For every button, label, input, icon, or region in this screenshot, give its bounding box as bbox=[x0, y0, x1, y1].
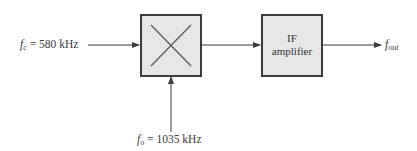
mixer-block bbox=[140, 14, 202, 77]
amplifier-label-line2: amplifier bbox=[263, 45, 321, 58]
if-amplifier-block: IF amplifier bbox=[261, 14, 323, 77]
oscillator-frequency-label: fo = 1035 kHz bbox=[137, 134, 202, 147]
input-frequency-label: fc = 580 kHz bbox=[20, 39, 78, 52]
output-frequency-label: fout bbox=[385, 39, 398, 52]
connections bbox=[0, 0, 417, 151]
multiply-cross-icon bbox=[142, 16, 200, 75]
amplifier-label-line1: IF bbox=[263, 32, 321, 45]
